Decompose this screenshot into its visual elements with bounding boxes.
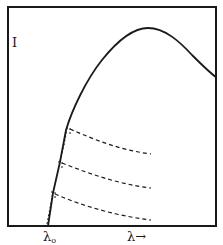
dashed-branch-middle: [62, 163, 151, 188]
dashed-branch-upper: [70, 129, 151, 154]
x-axis-label: λ→: [127, 229, 146, 244]
plot-frame: [8, 7, 216, 226]
dashed-branch-lower: [55, 194, 151, 220]
x-origin-label: λo: [43, 229, 56, 245]
intensity-wavelength-diagram: I λo λ→: [0, 0, 223, 245]
main-intensity-curve: [48, 28, 216, 226]
y-axis-label: I: [12, 35, 17, 50]
